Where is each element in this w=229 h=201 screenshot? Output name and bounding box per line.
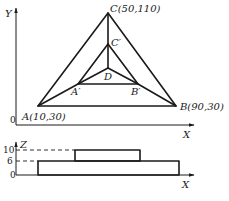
lower-block: [38, 161, 179, 175]
upper-block: [75, 150, 140, 161]
diagram-canvas: Y X 0 C(50,110) C′ D A′ B′ A(10,30) B(90…: [0, 0, 229, 201]
point-cprime-label: C′: [111, 37, 122, 48]
front-x-axis-label: X: [181, 179, 190, 190]
level-6-label: 6: [7, 156, 13, 166]
level-10-label: 10: [3, 145, 15, 155]
z-axis-label: Z: [19, 139, 28, 150]
origin-label: 0: [10, 115, 16, 125]
y-axis-label: Y: [5, 8, 13, 19]
edge-bprime-d: [108, 68, 138, 84]
outer-triangle-abc: [38, 13, 176, 106]
point-b-label: B(90,30): [179, 101, 224, 112]
top-view: Y X 0 C(50,110) C′ D A′ B′ A(10,30) B(90…: [5, 3, 224, 140]
x-axis-label: X: [182, 129, 191, 140]
front-view: Z X 0 10 6: [3, 139, 194, 190]
point-d-label: D: [103, 71, 112, 82]
point-aprime-label: A′: [70, 86, 81, 97]
point-a-label: A(10,30): [21, 111, 66, 122]
edge-b-bprime: [138, 84, 176, 106]
point-c-label: C(50,110): [110, 3, 161, 14]
front-origin-label: 0: [10, 170, 16, 180]
point-bprime-label: B′: [130, 86, 141, 97]
